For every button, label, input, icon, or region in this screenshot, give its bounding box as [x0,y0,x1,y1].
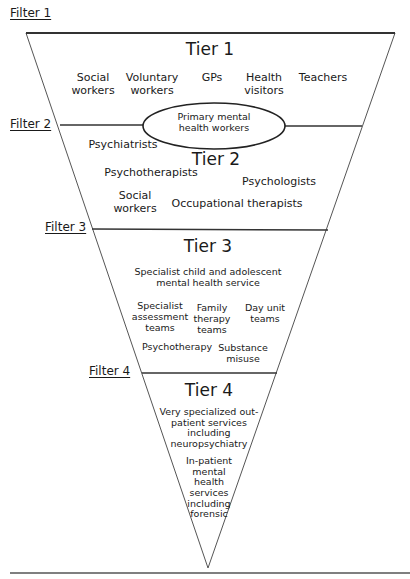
tier-3-item-psychotherapy: Psychotherapy [142,342,212,353]
tier-2-item-psychotherapists: Psychotherapists [104,167,198,180]
line: workers [113,203,156,216]
tier-2-item-psychologists: Psychologists [242,176,316,189]
line: workers [71,85,114,98]
line: Social [71,72,114,85]
line: teams [194,325,231,336]
filter-4-label: Filter 4 [89,364,130,378]
tier-1-item-teachers: Teachers [299,72,347,85]
tier-1-item-gps: GPs [202,72,223,85]
tier-3-item-specialist-assessment-teams: Specialist assessment teams [132,301,188,334]
tier-1-title: Tier 1 [186,40,234,60]
tier-3-subtitle: Specialist child and adolescent mental h… [135,267,282,289]
tier-4-title: Tier 4 [185,381,233,401]
tier-2-item-social-workers: Social workers [113,190,156,215]
tiered-services-funnel-diagram: Filter 1 Filter 2 Filter 3 Filter 4 Tier… [0,0,410,579]
filter-1-label: Filter 1 [10,6,51,20]
line: GPs [202,72,223,85]
filter-3-label: Filter 3 [45,220,86,234]
line: forensic [186,509,232,520]
line: mental health service [135,278,282,289]
tier-2-title: Tier 2 [192,150,240,170]
line: teams [245,314,285,325]
line: neuropsychiatry [160,439,259,450]
primary-mental-health-workers-label: Primary mental health workers [177,112,250,134]
tier-2-item-occupational-therapists: Occupational therapists [172,198,303,211]
line: services [186,488,232,499]
tier-1-item-health-visitors: Health visitors [244,72,284,97]
line: Social [113,190,156,203]
tier-1-item-voluntary-workers: Voluntary workers [126,72,179,97]
tier-1-item-social-workers: Social workers [71,72,114,97]
line: visitors [244,85,284,98]
line: Teachers [299,72,347,85]
tier-4-outpatient-services: Very specialized out- patient services i… [160,407,259,450]
filter-3-line [92,229,328,230]
tier-2-item-psychiatrists: Psychiatrists [88,139,157,152]
line: health workers [177,123,250,134]
tier-4-inpatient-services: In-patient mental health services includ… [186,456,232,520]
line: misuse [218,354,268,365]
line: teams [132,323,188,334]
tier-3-item-day-unit-teams: Day unit teams [245,303,285,325]
line: workers [126,85,179,98]
filter-2-label: Filter 2 [10,117,51,131]
tier-3-item-family-therapy-teams: Family therapy teams [194,303,231,336]
line: Health [244,72,284,85]
tier-3-title: Tier 3 [184,237,232,257]
line: Voluntary [126,72,179,85]
tier-3-item-substance-misuse: Substance misuse [218,343,268,365]
